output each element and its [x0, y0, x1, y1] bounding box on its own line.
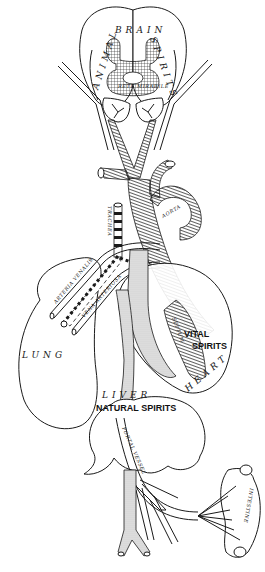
galen-physiology-diagram: BRAIN ANIMAL SPIRITS RETE MIRABILE AORTA…	[0, 0, 265, 572]
intestine: INTESTINE	[198, 465, 260, 557]
label-aorta: AORTA	[160, 203, 182, 219]
label-trachea: TRACHEA	[107, 206, 113, 236]
label-liver: LIVER	[101, 390, 151, 400]
label-natural-spirits: NATURAL SPIRITS	[96, 403, 176, 413]
liver: LIVER NATURAL SPIRITS	[84, 390, 205, 474]
label-lung: LUNG	[21, 350, 66, 360]
label-vital: VITAL	[184, 329, 210, 339]
label-spirits-vital: SPIRITS	[192, 341, 227, 351]
label-brain: BRAIN	[114, 25, 166, 35]
label-rete-mirabile: RETE MIRABILE	[117, 83, 169, 89]
lung: LUNG	[19, 258, 101, 429]
